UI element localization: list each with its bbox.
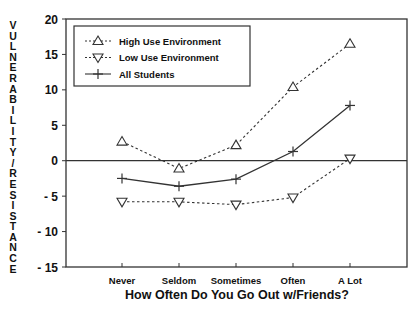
x-tick-label: A Lot [338, 275, 363, 286]
legend: High Use EnvironmentLow Use EnvironmentA… [74, 26, 250, 86]
triangle-up-marker [345, 39, 355, 48]
triangle-down-marker [288, 194, 298, 203]
triangle-up-marker [288, 82, 298, 91]
triangle-down-marker [117, 198, 127, 207]
x-tick-label: Sometimes [211, 275, 262, 286]
line-chart: 20151050- 5- 10- 15NeverSeldomSometimesO… [0, 0, 417, 316]
triangle-down-marker [345, 155, 355, 164]
y-tick-label: 15 [45, 48, 59, 62]
triangle-up-marker [231, 140, 241, 149]
triangle-up-marker [117, 137, 127, 146]
y-tick-label: 5 [51, 119, 58, 133]
legend-label: Low Use Environment [119, 52, 220, 63]
triangle-down-marker [231, 201, 241, 210]
y-tick-label: - 10 [37, 225, 58, 239]
x-tick-label: Never [109, 275, 136, 286]
legend-label: High Use Environment [119, 36, 222, 47]
y-tick-label: 10 [45, 83, 59, 97]
y-tick-label: 0 [51, 154, 58, 168]
legend-label: All Students [119, 69, 174, 80]
x-tick-label: Seldom [162, 275, 196, 286]
triangle-up-marker [174, 164, 184, 173]
triangle-down-marker [174, 198, 184, 207]
x-axis-label: How Often Do You Go Out w/Friends? [125, 288, 349, 302]
x-tick-label: Often [281, 275, 306, 286]
y-tick-label: 20 [45, 13, 59, 27]
y-tick-label: - 5 [44, 190, 58, 204]
y-tick-label: - 15 [37, 261, 58, 275]
